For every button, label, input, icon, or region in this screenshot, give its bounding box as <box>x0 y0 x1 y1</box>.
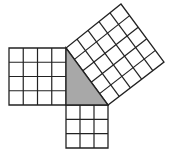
square-leg-4 <box>9 48 66 105</box>
pythagoras-diagram <box>0 0 169 159</box>
square-leg-3 <box>66 105 108 148</box>
square-leg-3-outline <box>66 105 108 148</box>
diagram-svg <box>0 0 169 159</box>
